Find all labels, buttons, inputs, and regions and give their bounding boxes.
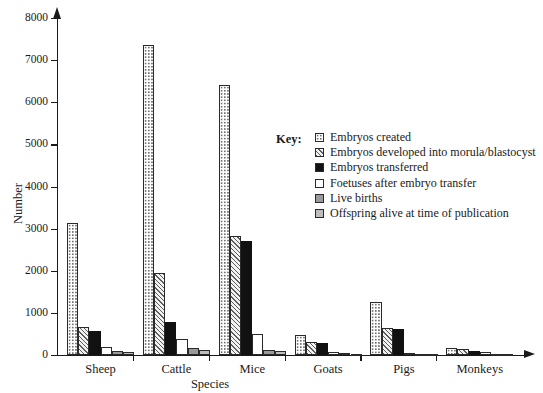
legend-item: Offspring alive at time of publication (315, 206, 538, 221)
bar-pigs (404, 353, 415, 355)
x-axis-label-mice: Mice (212, 362, 292, 376)
bar-mice (263, 350, 274, 355)
chart-legend: Key: Embryos createdEmbryos developed in… (276, 130, 538, 221)
x-axis-label-monkeys: Monkeys (440, 362, 520, 376)
x-axis-label-sheep: Sheep (61, 362, 141, 376)
y-axis-line (57, 18, 58, 356)
bar-cattle (188, 348, 199, 355)
y-axis-tick (51, 144, 57, 145)
bar-goats (339, 353, 350, 355)
legend-item-label: Embryos created (330, 130, 411, 145)
bar-monkeys (502, 354, 513, 356)
x-axis-label-pigs: Pigs (364, 362, 444, 376)
legend-swatch-icon (315, 148, 324, 157)
legend-item-label: Embryos transferred (330, 160, 428, 175)
y-axis-tick (51, 229, 57, 230)
legend-item-label: Live births (330, 191, 382, 206)
bar-goats (317, 343, 328, 355)
y-axis-title: Number (11, 169, 26, 239)
bar-monkeys (446, 348, 457, 355)
legend-item-label: Foetuses after embryo transfer (330, 176, 476, 191)
y-axis-tick (51, 355, 57, 356)
y-axis-tick (51, 187, 57, 188)
y-axis-tick (51, 271, 57, 272)
bar-sheep (67, 223, 78, 355)
bar-monkeys (469, 351, 480, 355)
x-axis-tick (285, 355, 286, 361)
bar-pigs (370, 302, 381, 355)
chart-figure: 010002000300040005000600070008000 SheepC… (0, 0, 543, 393)
legend-swatch-icon (315, 179, 324, 188)
bar-monkeys (457, 349, 468, 355)
bar-cattle (176, 339, 187, 355)
x-axis-title: Species (0, 377, 420, 392)
bar-pigs (382, 328, 393, 355)
bar-cattle (199, 350, 210, 355)
y-axis-tick-label: 0 (4, 349, 48, 361)
bar-mice (219, 85, 230, 355)
bar-mice (230, 236, 241, 355)
y-axis-tick-label: 5000 (4, 138, 48, 150)
x-axis-label-cattle: Cattle (136, 362, 216, 376)
y-axis-tick (51, 102, 57, 103)
legend-item-label: Offspring alive at time of publication (330, 206, 509, 221)
legend-swatch-icon (315, 163, 324, 172)
x-axis-tick (209, 355, 210, 361)
y-axis-tick (51, 60, 57, 61)
bar-sheep (101, 347, 112, 355)
y-axis-tick (51, 18, 57, 19)
legend-item: Embryos created (315, 130, 538, 145)
bar-goats (351, 354, 362, 356)
y-axis-tick-label: 6000 (4, 96, 48, 108)
legend-title: Key: (276, 132, 302, 147)
bar-sheep (89, 331, 100, 355)
bar-sheep (78, 327, 89, 355)
bar-cattle (143, 45, 154, 355)
y-axis-tick-label: 7000 (4, 54, 48, 66)
bar-mice (252, 334, 263, 355)
bar-cattle (165, 322, 176, 355)
bar-mice (241, 241, 252, 355)
bar-pigs (393, 329, 404, 355)
y-axis-tick-label: 8000 (4, 12, 48, 24)
bar-monkeys (480, 352, 491, 355)
bar-sheep (123, 352, 134, 355)
y-axis-tick (51, 313, 57, 314)
x-axis-arrow-icon (524, 350, 535, 358)
bar-goats (328, 352, 339, 355)
bar-mice (275, 351, 286, 355)
legend-swatch-icon (315, 209, 324, 218)
legend-swatch-icon (315, 133, 324, 142)
legend-item: Foetuses after embryo transfer (315, 176, 538, 191)
legend-item: Embryos transferred (315, 160, 538, 175)
legend-item-label: Embryos developed into morula/blastocyst (330, 145, 536, 160)
bar-sheep (112, 351, 123, 355)
bar-cattle (154, 273, 165, 355)
bar-goats (295, 335, 306, 355)
bar-pigs (415, 354, 426, 356)
legend-item: Live births (315, 191, 538, 206)
x-axis-label-goats: Goats (288, 362, 368, 376)
bar-monkeys (491, 354, 502, 356)
y-axis-tick-label: 2000 (4, 265, 48, 277)
legend-item: Embryos developed into morula/blastocyst (315, 145, 538, 160)
legend-swatch-icon (315, 194, 324, 203)
bar-pigs (426, 354, 437, 356)
bar-goats (306, 342, 317, 355)
y-axis-tick-label: 1000 (4, 307, 48, 319)
x-axis-tick (133, 355, 134, 361)
